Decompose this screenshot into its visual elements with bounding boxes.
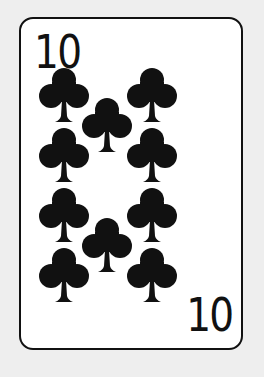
club-icon	[126, 186, 178, 246]
club-icon	[126, 66, 178, 126]
club-pip	[38, 246, 90, 306]
corner-rank-bottom-right: 10	[187, 292, 233, 338]
club-icon	[38, 126, 90, 186]
club-pip	[38, 126, 90, 186]
club-icon	[38, 246, 90, 306]
club-icon	[126, 246, 178, 306]
club-icon	[126, 126, 178, 186]
playing-card: 10 10	[19, 17, 243, 350]
club-pip	[126, 126, 178, 186]
club-pip	[126, 246, 178, 306]
club-pip	[126, 66, 178, 126]
club-pip	[126, 186, 178, 246]
